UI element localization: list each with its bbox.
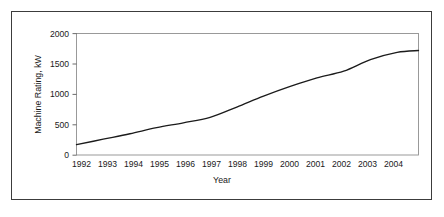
x-tick-label: 1993 [98,159,117,169]
y-axis-title: Machine Rating, kW [33,54,43,133]
y-tick-label: 0 [64,150,69,160]
y-axis-tick-labels: 0 500 1000 1500 2000 [50,29,69,161]
x-tick-label: 2002 [332,159,351,169]
x-tick-label: 2003 [358,159,377,169]
x-tick-label: 1994 [124,159,143,169]
x-tick-label: 1999 [254,159,273,169]
x-tick-label: 1996 [176,159,195,169]
x-tick-label: 1998 [228,159,247,169]
x-tick-label: 2000 [280,159,299,169]
x-tick-label: 2004 [384,159,403,169]
y-tick-label: 1500 [50,59,69,69]
figure-root: 0 500 1000 1500 2000 Machine Rating, kW … [0,0,444,217]
plot-area [77,34,419,156]
x-tick-label: 1995 [150,159,169,169]
x-tick-label: 1992 [72,159,91,169]
x-axis-tick-labels: 1992 1993 1994 1995 1996 1997 1998 1999 … [72,159,403,169]
y-tick-label: 2000 [50,29,69,39]
y-tick-label: 1000 [50,89,69,99]
y-tick-label: 500 [55,120,70,130]
x-tick-label: 2001 [306,159,325,169]
line-chart: 0 500 1000 1500 2000 Machine Rating, kW … [0,0,444,217]
y-axis-ticks [73,34,77,156]
x-tick-label: 1997 [202,159,221,169]
x-axis-title: Year [213,175,231,185]
